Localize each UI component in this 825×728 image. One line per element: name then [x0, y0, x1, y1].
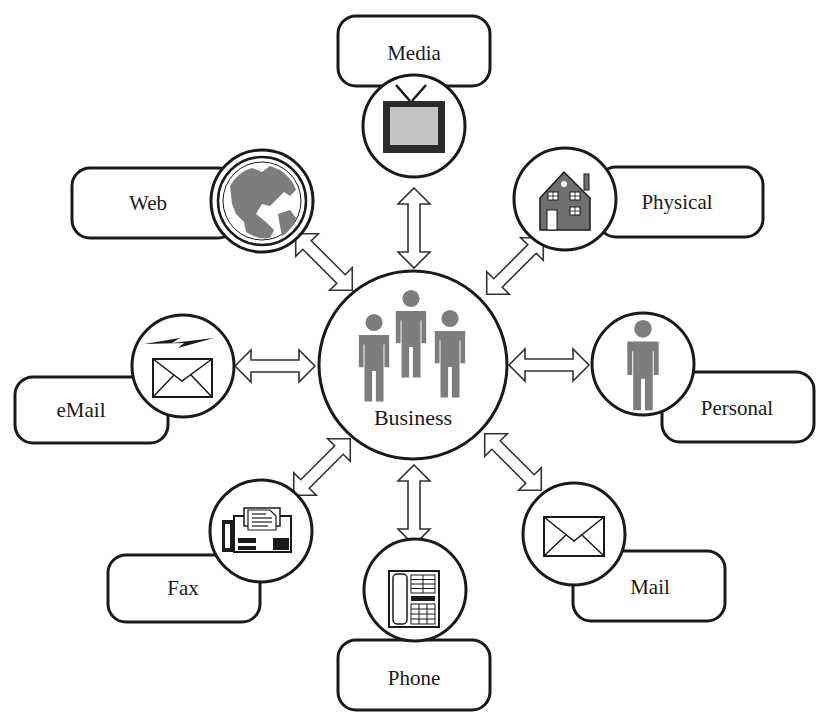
arrow-business-phone — [398, 465, 430, 545]
email-label: eMail — [57, 400, 106, 421]
globe-icon — [223, 162, 301, 240]
mail-label: Mail — [630, 577, 670, 598]
business-label: Business — [374, 407, 452, 429]
arrow-business-media — [398, 188, 430, 268]
arrow-business-personal — [509, 349, 589, 381]
personal-label: Personal — [701, 398, 773, 419]
desk-phone-icon — [389, 571, 439, 627]
phone-label: Phone — [388, 668, 441, 689]
physical-label: Physical — [641, 192, 712, 213]
arrow-business-email — [235, 350, 315, 382]
fax-label: Fax — [167, 578, 199, 599]
diagram-canvas — [0, 0, 825, 728]
web-label: Web — [129, 193, 167, 214]
envelope-icon — [544, 517, 604, 556]
media-label: Media — [387, 43, 441, 64]
arrow-business-mail — [473, 422, 552, 501]
